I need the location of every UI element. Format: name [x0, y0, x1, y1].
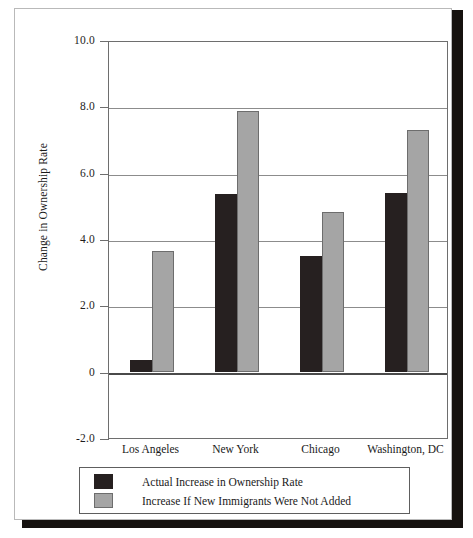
bar [215, 194, 237, 371]
y-axis-tick-label-text: 8.0 [47, 100, 95, 112]
plot-area [108, 41, 448, 439]
y-axis-tick-label-text: 6.0 [47, 167, 95, 179]
y-axis-tick-label-text: -2.0 [47, 432, 95, 444]
y-axis-tick-label-text: 2.0 [47, 299, 95, 311]
zero-line [109, 373, 447, 375]
y-axis-tick-label-text: 0 [47, 366, 95, 378]
bar [407, 130, 429, 372]
y-axis-tick-label-text: 10.0 [47, 34, 95, 46]
gray-swatch-icon [94, 493, 113, 508]
legend-item-no-immigrants: Increase If New Immigrants Were Not Adde… [94, 491, 351, 510]
legend-label-actual: Actual Increase in Ownership Rate [142, 476, 303, 488]
bar [152, 251, 174, 372]
x-axis-label: New York [193, 443, 278, 455]
y-axis-tick-label: 4.0 [40, 233, 95, 247]
x-axis-label: Chicago [278, 443, 363, 455]
y-axis-tick-label: 6.0 [40, 167, 95, 181]
chart-card: Change in Ownership Rate 10.08.06.04.02.… [14, 8, 452, 520]
legend-label-no-immigrants: Increase If New Immigrants Were Not Adde… [142, 495, 351, 507]
bar [130, 360, 152, 372]
chart-figure: Change in Ownership Rate 10.08.06.04.02.… [0, 0, 473, 538]
legend-item-actual: Actual Increase in Ownership Rate [94, 472, 303, 491]
chart-legend: Actual Increase in Ownership Rate Increa… [79, 467, 410, 514]
black-swatch-icon [94, 474, 113, 489]
y-axis-tick-label-text: 4.0 [47, 233, 95, 245]
y-axis-tick-label: 8.0 [40, 100, 95, 114]
gridline [109, 175, 447, 176]
x-axis-label: Los Angeles [108, 443, 193, 455]
bar [300, 256, 322, 372]
x-axis-label: Washington, DC [363, 443, 448, 455]
y-axis-tick-label: 10.0 [40, 34, 95, 48]
gridline [109, 108, 447, 109]
bar [322, 212, 344, 371]
y-axis-tick [100, 439, 109, 440]
bar [237, 111, 259, 371]
y-axis-title: Change in Ownership Rate [37, 117, 49, 297]
bar [385, 193, 407, 372]
y-axis-tick-label: 0 [40, 366, 95, 380]
y-axis-tick-label: -2.0 [40, 432, 95, 446]
y-axis-tick-label: 2.0 [40, 299, 95, 313]
card-shadow-right [452, 10, 463, 528]
